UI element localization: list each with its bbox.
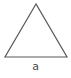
triangle-base-label: a: [0, 60, 71, 74]
triangle-figure: a: [0, 0, 71, 78]
triangle-outline: [5, 4, 67, 57]
